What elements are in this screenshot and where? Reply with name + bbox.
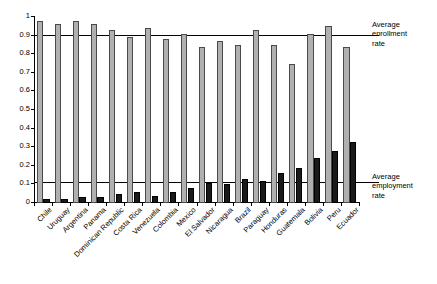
bar-enrollment-panama: [91, 24, 97, 203]
bar-employment-guatemala: [296, 168, 302, 203]
annotation-enrollment-line3: rate: [372, 39, 407, 48]
y-tick-mark: [31, 16, 34, 17]
bar-enrollment-nicaragua: [217, 41, 223, 203]
bar-employment-venezuela: [152, 196, 158, 203]
bar-employment-uruguay: [61, 199, 67, 203]
bar-employment-paraguay: [260, 181, 266, 203]
bar-enrollment-ecuador: [343, 47, 349, 203]
bar-employment-dominican-republic: [116, 194, 122, 203]
y-tick-label: 0: [26, 198, 30, 206]
y-tick-mark: [31, 128, 34, 129]
y-tick-mark: [31, 53, 34, 54]
y-tick-label: 0.3: [20, 142, 30, 150]
y-tick-label: 0.9: [20, 31, 30, 39]
bar-employment-bolivia: [314, 158, 320, 203]
y-tick-label: 0.4: [20, 124, 30, 132]
annotation-employment-line1: Average: [372, 172, 413, 181]
y-tick-label: 1: [26, 12, 30, 20]
y-tick-mark: [31, 109, 34, 110]
bar-enrollment-peru: [325, 26, 331, 203]
bar-enrollment-brazil: [235, 45, 241, 203]
bar-employment-el-salvador: [206, 183, 212, 203]
y-tick-label: 0.7: [20, 68, 30, 76]
bar-employment-colombia: [170, 192, 176, 203]
bar-employment-costa-rica: [134, 192, 140, 203]
annotation-average-employment-rate: Average employment rate: [372, 172, 413, 200]
bar-employment-chile: [43, 199, 49, 203]
y-tick-label: 0.5: [20, 105, 30, 113]
annotation-employment-line2: employment: [372, 181, 413, 190]
bar-employment-ecuador: [350, 142, 356, 203]
bar-employment-brazil: [242, 179, 248, 203]
bar-enrollment-colombia: [163, 39, 169, 203]
x-axis-labels: ChileUruguayArgentinaPanamaDominican Rep…: [34, 206, 359, 284]
bar-enrollment-chile: [37, 21, 43, 203]
bar-employment-mexico: [188, 188, 194, 203]
y-axis-line: [34, 16, 35, 203]
y-tick-label: 0.1: [20, 180, 30, 188]
y-tick-label: 0.8: [20, 49, 30, 57]
y-tick-mark: [31, 72, 34, 73]
bar-enrollment-honduras: [271, 45, 277, 203]
y-tick-mark: [31, 183, 34, 184]
bar-enrollment-dominican-republic: [109, 30, 115, 203]
x-tick-mark: [359, 202, 360, 206]
bar-enrollment-guatemala: [289, 64, 295, 204]
annotation-average-enrollment-rate: Average enrollment rate: [372, 20, 407, 48]
bar-employment-nicaragua: [224, 184, 230, 203]
annotation-enrollment-line2: enrollment: [372, 29, 407, 38]
bar-enrollment-uruguay: [55, 24, 61, 203]
bar-chart: 00.10.20.30.40.50.60.70.80.91 ChileUrugu…: [0, 0, 437, 284]
y-tick-label: 0.6: [20, 87, 30, 95]
y-tick-mark: [31, 146, 34, 147]
y-tick-label: 0.2: [20, 161, 30, 169]
annotation-employment-line3: rate: [372, 191, 413, 200]
bar-enrollment-paraguay: [253, 30, 259, 203]
annotation-enrollment-line1: Average: [372, 20, 407, 29]
y-tick-mark: [31, 165, 34, 166]
bar-enrollment-costa-rica: [127, 37, 133, 203]
bar-employment-argentina: [79, 197, 85, 203]
bar-enrollment-el-salvador: [199, 47, 205, 203]
bar-employment-peru: [332, 151, 338, 203]
plot-area: 00.10.20.30.40.50.60.70.80.91: [34, 16, 359, 203]
y-tick-mark: [31, 90, 34, 91]
bar-employment-honduras: [278, 173, 284, 203]
bar-employment-panama: [97, 197, 103, 203]
bar-enrollment-venezuela: [145, 28, 151, 203]
bar-enrollment-mexico: [181, 34, 187, 203]
bar-enrollment-bolivia: [307, 34, 313, 203]
bar-enrollment-argentina: [73, 21, 79, 203]
